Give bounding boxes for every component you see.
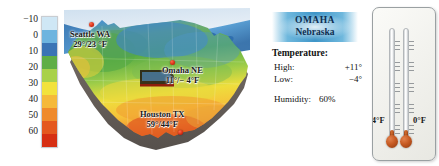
omaha-details: Temperature: High: +11° Low: −4° Humidit… xyxy=(258,48,370,104)
legend-swatch-4 xyxy=(42,69,57,82)
legend-swatch-2 xyxy=(42,43,57,56)
legend-swatch-9 xyxy=(42,134,57,147)
legend-tick-label: 10 xyxy=(29,47,39,57)
high-temp-label: High: xyxy=(274,62,295,72)
legend-swatch-3 xyxy=(42,56,57,69)
high-thermometer-label: 0°F xyxy=(413,115,426,125)
legend-tick-label: −10 xyxy=(23,15,38,25)
humidity-label: Humidity: xyxy=(274,94,311,104)
nebraska-highlight xyxy=(140,70,174,87)
weather-map-widget: −10 0 10 20 30 40 50 60 xyxy=(0,0,439,166)
legend-tick-label: 50 xyxy=(29,111,39,121)
legend-tick-label: 20 xyxy=(29,63,39,73)
omaha-info-panel: OMAHA Nebraska Temperature: High: +11° L… xyxy=(258,8,370,116)
usa-map-svg xyxy=(62,6,250,160)
city-dot-omaha xyxy=(170,60,175,65)
omaha-title-banner: OMAHA Nebraska xyxy=(272,12,358,42)
humidity-value: 60% xyxy=(319,94,336,104)
legend-color-bar xyxy=(41,16,58,148)
legend-tick-labels: −10 0 10 20 30 40 50 60 xyxy=(12,14,38,150)
high-temp-row: High: +11° xyxy=(274,62,362,72)
thermometer-panel: −4°F 0°F xyxy=(372,7,436,161)
legend-swatch-8 xyxy=(42,121,57,134)
low-thermometer-ticks xyxy=(395,30,400,134)
legend-swatch-0 xyxy=(42,17,57,30)
low-thermometer-bulb xyxy=(386,135,398,148)
city-dot-houston xyxy=(178,130,183,135)
legend-swatch-5 xyxy=(42,82,57,95)
low-thermometer-label: −4°F xyxy=(372,115,385,125)
temperature-heading: Temperature: xyxy=(272,48,370,58)
low-temp-value: −4° xyxy=(349,74,362,84)
legend-tick-label: 0 xyxy=(33,31,38,41)
map-container[interactable]: Seattle WA 29°/23 °F Omaha NE 11°/− 4°F … xyxy=(62,6,250,160)
high-thermometer-bulb xyxy=(400,135,412,148)
legend-swatch-7 xyxy=(42,108,57,121)
low-temp-row: Low: −4° xyxy=(274,74,362,84)
high-temp-value: +11° xyxy=(345,62,362,72)
legend-tick-label: 60 xyxy=(29,127,39,137)
legend-swatch-1 xyxy=(42,30,57,43)
low-temp-label: Low: xyxy=(274,74,293,84)
omaha-city-name: OMAHA xyxy=(272,15,358,27)
humidity-row: Humidity: 60% xyxy=(274,94,370,104)
legend-tick-label: 40 xyxy=(29,95,39,105)
legend-swatch-6 xyxy=(42,95,57,108)
omaha-state-name: Nebraska xyxy=(272,27,358,39)
city-dot-seattle xyxy=(89,22,94,27)
legend-tick-label: 30 xyxy=(29,79,39,89)
